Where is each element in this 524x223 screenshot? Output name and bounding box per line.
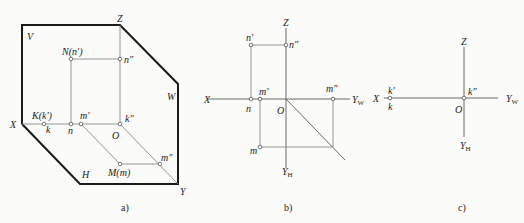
- plane-label-h: H: [81, 169, 90, 180]
- label-m2: m": [161, 152, 173, 163]
- axis-label-yh: YH: [282, 166, 293, 179]
- label-m2: m": [326, 83, 338, 94]
- label-m: m: [250, 145, 257, 156]
- label-K: K(k'): [31, 110, 53, 122]
- point-m1: [258, 97, 262, 101]
- label-m1: m': [259, 86, 269, 97]
- plane-label-w: W: [167, 91, 177, 102]
- label-n2: n": [124, 54, 134, 65]
- axis-label-o: O: [112, 130, 119, 141]
- figure-a-3d-projection: V W H Z X Y O N(n') n" K(k') k n m' k" M…: [9, 13, 187, 214]
- point-m2: [331, 97, 335, 101]
- axis-label-o: O: [277, 105, 284, 116]
- point-n1: [249, 43, 253, 47]
- label-n: n: [246, 103, 251, 114]
- label-k: k: [46, 124, 51, 135]
- point-M: [118, 162, 122, 166]
- axis-label-yh: YH: [460, 140, 471, 153]
- label-M: M(m): [107, 167, 131, 179]
- axis-label-yw: YW: [506, 93, 519, 106]
- diagonal-45-line: [286, 99, 345, 160]
- figure-c-point-on-axis: Z X O YW YH k' k k" c): [372, 36, 519, 214]
- point-n2: [284, 43, 288, 47]
- axis-label-x: X: [372, 93, 380, 104]
- axis-label-o: O: [455, 104, 462, 115]
- label-n: n: [68, 125, 73, 136]
- axis-label-z: Z: [283, 17, 289, 28]
- caption-a: a): [121, 202, 129, 214]
- label-N: N(n'): [61, 46, 83, 58]
- point-n2: [118, 57, 122, 61]
- label-n1: n': [246, 32, 254, 43]
- point-m1: [79, 122, 83, 126]
- point-k2: [118, 122, 122, 126]
- point-n: [249, 97, 253, 101]
- label-k: k: [388, 101, 393, 112]
- label-k2: k": [125, 113, 134, 124]
- axis-label-x: X: [203, 94, 211, 105]
- label-k2: k": [468, 86, 477, 97]
- point-k2: [462, 96, 466, 100]
- label-m1: m': [80, 110, 90, 121]
- axis-label-y: Y: [180, 186, 187, 197]
- point-k: [388, 96, 392, 100]
- label-n2: n": [289, 39, 299, 50]
- axis-label-z: Z: [117, 13, 123, 24]
- plane-label-v: V: [27, 31, 35, 42]
- figure-b-orthographic-projection: Z X O YW YH n' n" n m' m" m b): [203, 17, 365, 214]
- projection-diagrams: V W H Z X Y O N(n') n" K(k') k n m' k" M…: [0, 0, 524, 223]
- axis-label-z: Z: [461, 36, 467, 47]
- axis-label-x: X: [9, 119, 17, 130]
- axis-label-yw: YW: [352, 94, 365, 107]
- caption-b: b): [284, 202, 292, 214]
- caption-c: c): [458, 202, 466, 214]
- label-k1: k': [388, 85, 395, 96]
- point-m: [258, 145, 262, 149]
- point-N: [69, 57, 73, 61]
